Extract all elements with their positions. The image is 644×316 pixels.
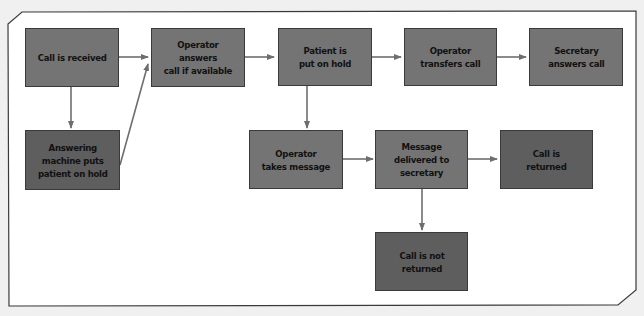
node-message-delivered: Message delivered to secretary <box>375 130 468 189</box>
node-operator-takes-message: Operator takes message <box>249 130 343 189</box>
node-patient-on-hold: Patient is put on hold <box>278 28 372 86</box>
node-call-returned: Call is returned <box>500 130 593 189</box>
node-operator-transfers: Operator transfers call <box>404 28 497 86</box>
node-call-received: Call is received <box>25 28 119 87</box>
node-answering-machine: Answering machine puts patient on hold <box>25 130 120 190</box>
node-operator-answers: Operator answers call if available <box>151 28 245 87</box>
node-secretary-answers: Secretary answers call <box>529 28 623 86</box>
node-call-not-returned: Call is not returned <box>375 232 468 291</box>
